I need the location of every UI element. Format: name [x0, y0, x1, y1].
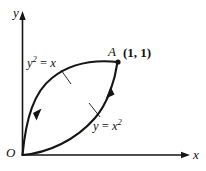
point-a-label: A [108, 45, 116, 58]
curve-upper-eq-operator: = [37, 56, 50, 70]
x-axis [23, 152, 191, 158]
curve-lower-path [23, 62, 118, 155]
curve-upper-direction-arrowhead [33, 109, 42, 121]
curve-lower-eq-operator: = [99, 119, 112, 133]
curve-lower-label-leader [89, 103, 100, 117]
diagram-svg [0, 0, 206, 171]
x-axis-arrowhead [181, 152, 190, 158]
curve-upper-equation-label: y2 = x [27, 57, 56, 70]
figure-canvas: y x O A (1, 1) y2 = x y = x2 [0, 0, 206, 171]
curve-lower-direction-arrowhead [106, 87, 115, 99]
curve-upper-label-leader [61, 70, 71, 84]
x-axis-label: x [193, 148, 199, 161]
curve-upper-eq-rhs: x [50, 56, 56, 70]
curve-lower-eq-exponent: 2 [117, 117, 121, 127]
y-axis-arrowhead [19, 11, 25, 20]
origin-label: O [6, 146, 15, 159]
curve-lower-y-equals-x2 [23, 62, 118, 155]
point-a-coordinates-label: (1, 1) [123, 46, 151, 59]
curve-lower-equation-label: y = x2 [93, 120, 122, 133]
point-a-dot [115, 59, 120, 64]
y-axis-label: y [13, 6, 19, 19]
